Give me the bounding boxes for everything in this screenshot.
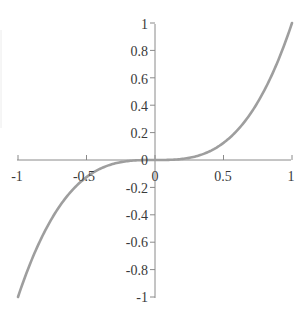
y-label-0.2: 0.2 [131,126,149,141]
x-label-neg-0.5: -0.5 [73,169,95,184]
y-label-neg-0.4: -0.4 [126,208,148,223]
y-label-neg-0.6: -0.6 [126,235,148,250]
x-label-0.5: 0.5 [214,169,232,184]
y-label-neg-1: -1 [136,290,148,305]
x-label-0: 0 [152,169,159,184]
y-label-0: 0 [141,153,148,168]
y-label-neg-0.2: -0.2 [126,181,148,196]
y-label-0.8: 0.8 [131,44,149,59]
y-label-neg-0.8: -0.8 [126,263,148,278]
y-label-0.4: 0.4 [131,99,149,114]
y-label-1: 1 [141,17,148,32]
x-axis-labels: -1 -0.5 0 0.5 1 [11,169,294,184]
y-label-0.6: 0.6 [131,72,149,87]
x-label-neg-1: -1 [11,169,23,184]
cubic-function-chart: 1 0.8 0.6 0.4 0.2 0 -0.2 -0.4 -0.6 -0.8 … [0,0,306,314]
x-label-1: 1 [288,169,295,184]
